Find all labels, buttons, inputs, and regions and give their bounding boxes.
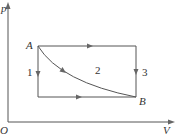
path-1-right-arrow-icon (76, 95, 82, 100)
p-axis-label: p (0, 2, 7, 14)
point-b-label: B (139, 95, 146, 107)
axes (6, 2, 176, 125)
path-3 (38, 44, 139, 98)
origin-label: O (0, 124, 8, 136)
pv-diagram: p V O A B 1 2 3 (0, 0, 180, 136)
path-3-right-arrow-icon (87, 44, 93, 49)
path-2-arrow-icon (60, 67, 67, 73)
path-1-down-arrow-icon (36, 71, 41, 77)
path-1 (36, 46, 137, 100)
path-1-label: 1 (27, 66, 33, 78)
path-2 (38, 46, 136, 97)
point-a-label: A (25, 39, 33, 51)
v-axis-label: V (163, 124, 171, 136)
path-2-label: 2 (95, 64, 101, 76)
path-3-down-arrow-icon (134, 69, 139, 75)
path-3-label: 3 (142, 66, 148, 78)
